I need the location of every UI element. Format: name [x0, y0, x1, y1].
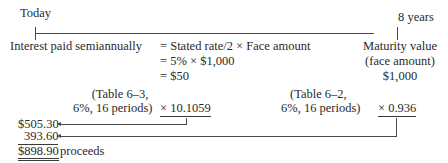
timeline-start-label: Today: [20, 6, 51, 20]
interest-formula-line2: = 5% × $1,000: [160, 54, 235, 68]
pv-connector-vertical: [396, 118, 397, 136]
timeline-axis: [35, 33, 374, 34]
interest-formula-line1: = Stated rate/2 × Face amount: [160, 39, 311, 53]
pv-connector-horizontal: [60, 136, 397, 137]
proceeds-label: proceeds: [60, 144, 104, 158]
pv-factor: × 0.936: [378, 101, 416, 117]
interest-label: Interest paid semiannually: [10, 39, 142, 53]
principal-present-value: 393.60: [18, 129, 58, 145]
annuity-table-ref-line1: (Table 6–3,: [70, 87, 170, 101]
timeline-end-label: 8 years: [398, 10, 434, 24]
pv-table-ref-line1: (Table 6–2,: [290, 87, 336, 101]
maturity-amount: $1,000: [355, 69, 445, 83]
maturity-label: Maturity value: [355, 39, 445, 53]
pv-table-ref-line2: 6%, 16 periods): [281, 101, 361, 115]
maturity-sublabel: (face amount): [355, 54, 445, 68]
annuity-connector-horizontal: [60, 124, 187, 125]
annuity-table-ref-line2: 6%, 16 periods): [73, 101, 153, 115]
interest-formula-line3: = $50: [160, 69, 189, 83]
annuity-factor: × 10.1059: [160, 101, 211, 117]
total-proceeds: $898.90: [18, 144, 59, 161]
